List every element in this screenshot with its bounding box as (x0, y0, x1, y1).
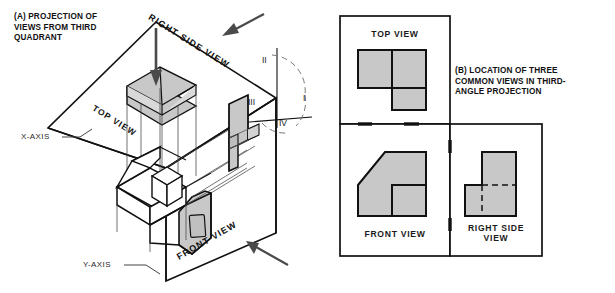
arrow-right-side-view (222, 14, 264, 36)
panel-b-top-view-label: TOP VIEW (358, 29, 432, 39)
x-axis-label: X-AXIS (21, 132, 50, 141)
quadrant-label-2: II (262, 55, 267, 65)
arrow-front-view (246, 241, 288, 265)
panel-a-drawing (0, 0, 320, 293)
quadrant-label-1: I (303, 93, 305, 103)
panel-a-caption: (A) PROJECTION OF VIEWS FROM THIRD QUADR… (14, 12, 97, 44)
panel-a: (A) PROJECTION OF VIEWS FROM THIRD QUADR… (0, 0, 320, 293)
panel-b: (B) LOCATION OF THREE COMMON VIEWS IN TH… (330, 0, 615, 293)
quadrant-label-3: III (248, 97, 255, 107)
panel-b-caption: (B) LOCATION OF THREE COMMON VIEWS IN TH… (455, 66, 566, 98)
figure-root: (A) PROJECTION OF VIEWS FROM THIRD QUADR… (0, 0, 615, 293)
quadrant-label-4: IV (279, 118, 287, 128)
panel-b-front-view-label: FRONT VIEW (352, 229, 438, 239)
y-axis-label: Y-AXIS (83, 260, 111, 269)
panel-b-drawing (330, 0, 615, 293)
panel-b-right-side-view-label: RIGHT SIDE VIEW (456, 223, 536, 243)
